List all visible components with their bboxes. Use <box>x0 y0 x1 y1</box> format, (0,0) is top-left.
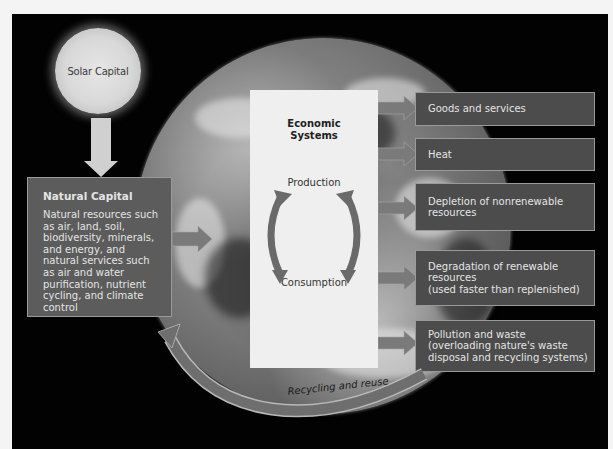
diagram-frame: Solar Capital Natural Capital Natural re… <box>12 14 608 449</box>
